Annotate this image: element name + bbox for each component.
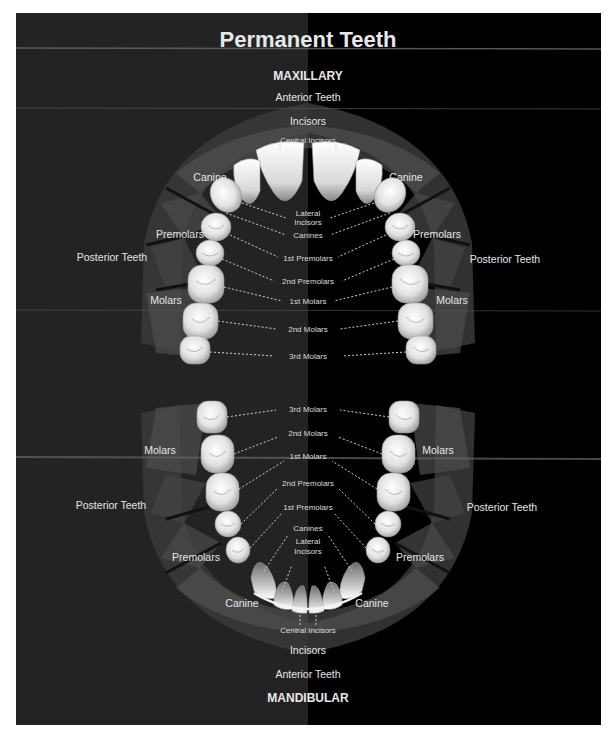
mandibular-lateral-incisors-label-2: Incisors xyxy=(294,547,322,556)
maxillary-first-molars-label: 1st Molars xyxy=(290,297,327,306)
maxillary-heading: MAXILLARY xyxy=(273,69,343,83)
mandibular-molars-left-group: Molars xyxy=(144,444,176,456)
tooth-lower-second-molar-right xyxy=(382,435,415,473)
mandibular-molars-right-group: Molars xyxy=(422,444,454,456)
tooth-upper-first-premolar-left xyxy=(201,213,231,241)
mandibular-third-molars-label: 3rd Molars xyxy=(289,405,327,414)
mandibular-central-incisors-label: Central Incisors xyxy=(280,626,336,635)
mandibular-posterior-left-label: Posterior Teeth xyxy=(76,499,147,511)
mandibular-first-premolars-label: 1st Premolars xyxy=(283,503,332,512)
maxillary-first-premolars-label: 1st Premolars xyxy=(283,254,332,263)
tooth-lower-second-premolar-left xyxy=(215,511,241,537)
diagram-frame: Permanent Teeth MAXILLARY Anterior Teeth… xyxy=(16,13,601,725)
maxillary-premolars-left-group: Premolars xyxy=(156,228,204,240)
tooth-upper-first-molar-right xyxy=(392,265,428,303)
mandibular-canines-label: Canines xyxy=(293,524,322,533)
maxillary-central-incisors-label: Central Incisors xyxy=(280,136,336,145)
tooth-upper-third-molar-right xyxy=(406,336,436,364)
mandibular-anterior-label: Anterior Teeth xyxy=(275,668,340,680)
maxillary-second-premolars-label: 2nd Premolars xyxy=(282,277,334,286)
tooth-lower-second-molar-left xyxy=(201,435,234,473)
maxillary-second-molars-label: 2nd Molars xyxy=(288,325,328,334)
maxillary-third-molars-label: 3rd Molars xyxy=(289,352,327,361)
dental-chart: Permanent Teeth MAXILLARY Anterior Teeth… xyxy=(16,13,601,725)
mandibular-second-molars-label: 2nd Molars xyxy=(288,429,328,438)
tooth-upper-second-premolar-right xyxy=(392,240,420,266)
maxillary-canine-left-group: Canine xyxy=(193,171,226,183)
maxillary-canine-right-group: Canine xyxy=(389,171,422,183)
mandibular-first-molars-label: 1st Molars xyxy=(290,452,327,461)
tooth-upper-first-molar-left xyxy=(188,265,224,303)
maxillary-posterior-left-label: Posterior Teeth xyxy=(77,251,148,263)
mandibular-incisors-group: Incisors xyxy=(290,644,326,656)
tooth-lower-first-molar-left xyxy=(206,473,239,511)
maxillary-lateral-incisors-label-2: Incisors xyxy=(294,218,322,227)
mandibular-lateral-incisors-label-1: Lateral xyxy=(296,537,321,546)
maxillary-molars-left-group: Molars xyxy=(150,294,182,306)
mandibular-premolars-left-group: Premolars xyxy=(172,551,220,563)
tooth-lower-first-premolar-right xyxy=(366,537,390,563)
maxillary-lateral-incisors-label-1: Lateral xyxy=(296,209,321,218)
mandibular-second-premolars-label: 2nd Premolars xyxy=(282,479,334,488)
maxillary-posterior-right-label: Posterior Teeth xyxy=(470,253,541,265)
maxillary-anterior-label: Anterior Teeth xyxy=(275,91,340,103)
tooth-upper-second-molar-left xyxy=(183,303,218,339)
tooth-lower-second-premolar-right xyxy=(375,511,401,537)
maxillary-premolars-right-group: Premolars xyxy=(413,228,461,240)
mandibular-premolars-right-group: Premolars xyxy=(396,551,444,563)
tooth-lower-third-molar-left xyxy=(197,401,227,433)
mandibular-canine-left-group: Canine xyxy=(225,597,258,609)
tooth-lower-first-molar-right xyxy=(377,473,410,511)
maxillary-molars-right-group: Molars xyxy=(436,294,468,306)
tooth-lower-third-molar-right xyxy=(389,401,419,433)
tooth-upper-second-premolar-left xyxy=(196,240,224,266)
tooth-upper-third-molar-left xyxy=(180,336,210,364)
mandibular-posterior-right-label: Posterior Teeth xyxy=(467,501,538,513)
mandibular-canine-right-group: Canine xyxy=(355,597,388,609)
mandibular-heading: MANDIBULAR xyxy=(267,691,349,705)
page-title: Permanent Teeth xyxy=(220,27,397,52)
tooth-lower-first-premolar-left xyxy=(226,537,250,563)
maxillary-incisors-group: Incisors xyxy=(290,115,326,127)
maxillary-canines-label: Canines xyxy=(293,231,322,240)
tooth-upper-first-premolar-right xyxy=(385,213,415,241)
tooth-upper-second-molar-right xyxy=(398,303,433,339)
